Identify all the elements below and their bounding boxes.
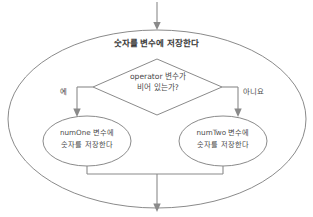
entry-arrow	[153, 2, 160, 30]
flowchart-svg	[0, 0, 313, 217]
exit-arrow	[153, 191, 160, 212]
no-branch-connector	[222, 87, 242, 117]
yes-branch-label: 예	[60, 85, 67, 96]
left-process-ellipse	[43, 116, 131, 166]
decision-diamond	[93, 59, 222, 115]
no-branch-label: 아니요	[243, 85, 264, 96]
right-process-ellipse	[179, 116, 267, 166]
merge-connector	[87, 166, 223, 191]
yes-branch-connector	[73, 87, 93, 117]
flowchart-canvas: 숫자를 변수에 저장한다 operator 변수가 비어 있는가? 예 아니요 …	[0, 0, 313, 217]
